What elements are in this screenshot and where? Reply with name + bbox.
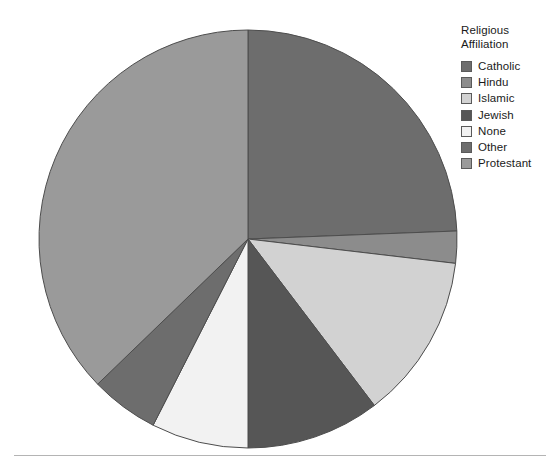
legend-item-protestant[interactable]: Protestant bbox=[461, 157, 557, 170]
legend-swatch-icon bbox=[461, 93, 472, 104]
legend-item-label: Catholic bbox=[478, 60, 520, 73]
pie-chart-figure: Religious Affiliation CatholicHinduIslam… bbox=[0, 0, 560, 476]
legend-item-label: None bbox=[478, 125, 506, 138]
legend-item-label: Hindu bbox=[478, 76, 509, 89]
legend-item-none[interactable]: None bbox=[461, 125, 557, 138]
pie-slice-catholic[interactable] bbox=[248, 30, 457, 239]
legend-swatch-icon bbox=[461, 158, 472, 169]
legend-item-label: Other bbox=[478, 141, 507, 154]
chart-legend: Religious Affiliation CatholicHinduIslam… bbox=[461, 24, 557, 170]
footer-divider bbox=[14, 455, 546, 456]
legend-swatch-icon bbox=[461, 110, 472, 121]
legend-item-other[interactable]: Other bbox=[461, 141, 557, 154]
legend-item-label: Jewish bbox=[478, 109, 514, 122]
legend-item-label: Protestant bbox=[478, 157, 531, 170]
legend-swatch-icon bbox=[461, 126, 472, 137]
legend-item-jewish[interactable]: Jewish bbox=[461, 109, 557, 122]
legend-swatch-icon bbox=[461, 142, 472, 153]
legend-item-list: CatholicHinduIslamicJewishNoneOtherProte… bbox=[461, 60, 557, 170]
legend-item-hindu[interactable]: Hindu bbox=[461, 76, 557, 89]
legend-item-catholic[interactable]: Catholic bbox=[461, 60, 557, 73]
legend-title: Religious Affiliation bbox=[461, 24, 557, 51]
legend-swatch-icon bbox=[461, 61, 472, 72]
legend-item-label: Islamic bbox=[478, 92, 514, 105]
legend-item-islamic[interactable]: Islamic bbox=[461, 92, 557, 105]
legend-swatch-icon bbox=[461, 77, 472, 88]
